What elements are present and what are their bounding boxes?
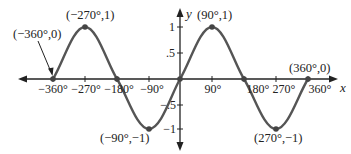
- x-tick-label-270: 270°: [273, 82, 296, 96]
- x-axis-label: x: [339, 80, 346, 95]
- y-tick-label-m05: −.5: [160, 98, 176, 112]
- annotation-360: (360°,0): [289, 61, 330, 75]
- x-tick-label-m270: −270°: [71, 82, 101, 96]
- x-axis-left-arrow-icon: [18, 76, 27, 83]
- sine-graph: −360° −270° −180° −90° 90° 180° 270° 360…: [0, 0, 351, 154]
- annotation-270: (270°,−1): [254, 131, 303, 145]
- y-axis-down-arrow-icon: [177, 142, 184, 151]
- y-tick-label-05: .5: [166, 46, 175, 60]
- annotation-m360: (−360°,0): [13, 27, 62, 41]
- x-tick-label-180: 180°: [247, 82, 270, 96]
- point-90: [209, 24, 215, 30]
- annotation-90: (90°,1): [197, 8, 232, 22]
- point-m180: [114, 76, 120, 82]
- x-tick-label-m180: −180°: [104, 82, 134, 96]
- y-tick-label-1: 1: [169, 20, 175, 34]
- x-tick-label-m360: −360°: [38, 82, 68, 96]
- y-axis-up-arrow-icon: [177, 8, 184, 17]
- annotation-leader-arrow: [38, 41, 54, 76]
- y-axis-label: y: [184, 6, 192, 21]
- leader-arrowhead-icon: [48, 68, 54, 77]
- annotation-m90: (−90°,−1): [100, 131, 149, 145]
- x-tick-label-m90: −90°: [140, 82, 164, 96]
- y-tick-label-m1: −1: [163, 122, 176, 136]
- point-m360: [50, 76, 56, 82]
- point-m270: [82, 24, 88, 30]
- annotation-m270: (−270°,1): [66, 8, 115, 22]
- point-360: [305, 76, 311, 82]
- x-tick-label-90: 90°: [205, 82, 222, 96]
- point-180: [241, 76, 247, 82]
- x-tick-label-360: 360°: [309, 82, 332, 96]
- point-origin: [177, 76, 183, 82]
